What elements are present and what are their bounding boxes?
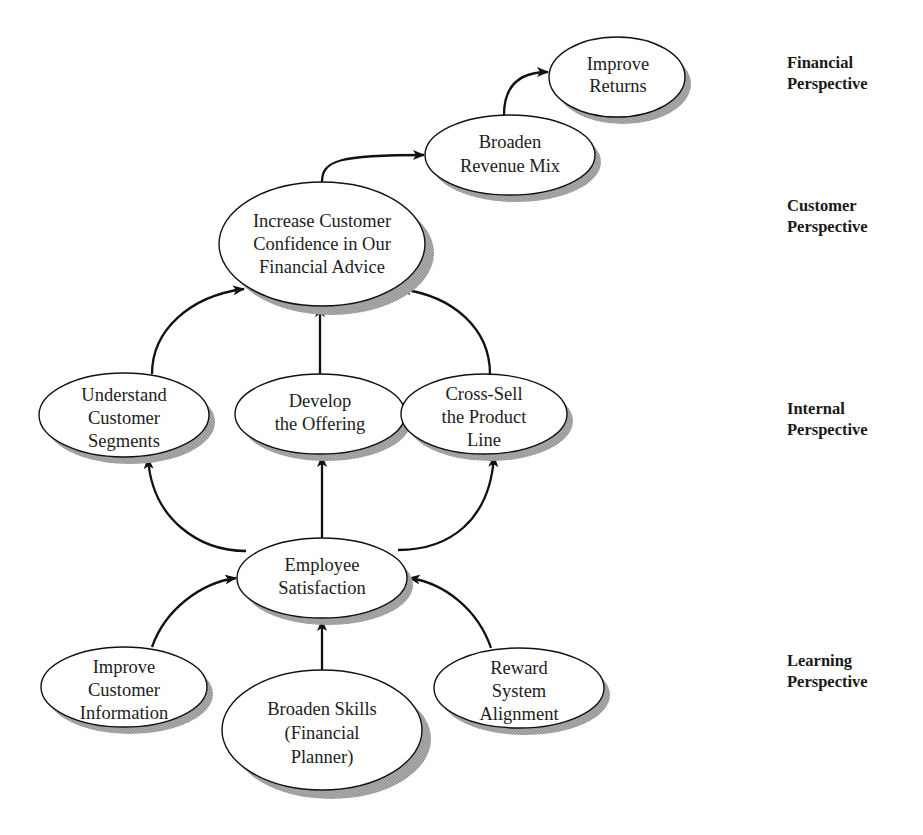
perspective-label-learning: Learning Perspective <box>787 650 868 692</box>
edge-crosssell-to-confidence <box>400 289 490 374</box>
node-improve-customer-information: ImproveCustomerInformation <box>41 647 213 734</box>
perspective-label-financial: Financial Perspective <box>787 52 868 94</box>
edge-employee-to-crosssell <box>398 456 494 550</box>
svg-text:ImproveCustomerInformation: ImproveCustomerInformation <box>80 657 168 723</box>
node-increase-customer-confidence: Increase CustomerConfidence in OurFinanc… <box>219 182 434 315</box>
perspective-customer-line1: Customer <box>787 195 868 216</box>
node-broaden-skills: Broaden Skills(FinancialPlanner) <box>222 670 431 799</box>
perspective-internal-line1: Internal <box>787 398 868 419</box>
edge-custinfo-to-employee <box>152 578 236 647</box>
edge-broaden-revenue-to-improve-returns <box>504 72 548 115</box>
node-improve-returns: ImproveReturns <box>549 37 691 124</box>
node-understand-customer-segments: UnderstandCustomerSegments <box>39 373 215 464</box>
node-employee-satisfaction: EmployeeSatisfaction <box>237 538 413 625</box>
node-develop-the-offering: Developthe Offering <box>235 374 411 461</box>
perspective-financial-line2: Perspective <box>787 73 868 94</box>
perspective-learning-line2: Perspective <box>787 671 868 692</box>
edge-employee-to-segments <box>148 458 246 551</box>
svg-text:UnderstandCustomerSegments: UnderstandCustomerSegments <box>81 385 167 451</box>
node-cross-sell-product-line: Cross-Sellthe ProductLine <box>401 374 573 461</box>
perspective-learning-line1: Learning <box>787 650 868 671</box>
svg-text:Increase CustomerConfidence in: Increase CustomerConfidence in OurFinanc… <box>253 211 391 277</box>
perspective-label-internal: Internal Perspective <box>787 398 868 440</box>
edge-confidence-to-broaden-revenue <box>322 155 424 182</box>
edge-reward-to-employee <box>409 578 491 648</box>
strategy-map-diagram: ImproveReturns BroadenRevenue Mix Increa… <box>0 0 923 835</box>
edge-segments-to-confidence <box>152 289 244 374</box>
node-broaden-revenue-mix: BroadenRevenue Mix <box>425 115 601 202</box>
perspective-internal-line2: Perspective <box>787 419 868 440</box>
perspective-customer-line2: Perspective <box>787 216 868 237</box>
perspective-label-customer: Customer Perspective <box>787 195 868 237</box>
perspective-financial-line1: Financial <box>787 52 868 73</box>
node-reward-system-alignment: RewardSystemAlignment <box>434 648 610 735</box>
